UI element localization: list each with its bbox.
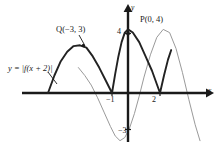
point-marker-q xyxy=(82,44,85,47)
point-q-label: Q(−3, 3) xyxy=(56,24,85,34)
equation-label: y = |f(x + 2)| xyxy=(8,63,52,73)
y-axis xyxy=(124,4,133,142)
x-tick-label-2: 2 xyxy=(152,95,156,104)
y-tick-label-4: 4 xyxy=(117,27,121,36)
q-label-leader-line xyxy=(79,35,84,44)
original-function-curve xyxy=(78,29,200,140)
point-marker-p xyxy=(126,32,130,36)
transformed-function-curve xyxy=(48,29,171,93)
plot-canvas xyxy=(0,0,219,152)
graph-figure: y = |f(x + 2)| Q(−3, 3) P(0, 4) 4 −1 2 −… xyxy=(0,0,219,152)
point-p-label: P(0, 4) xyxy=(140,14,163,24)
x-axis-label: x xyxy=(208,86,211,95)
x-tick-label-neg1: −1 xyxy=(106,95,115,104)
y-tick-label-neg3: −3 xyxy=(118,126,127,135)
x-axis xyxy=(22,89,214,98)
y-axis-label: y xyxy=(131,3,134,12)
